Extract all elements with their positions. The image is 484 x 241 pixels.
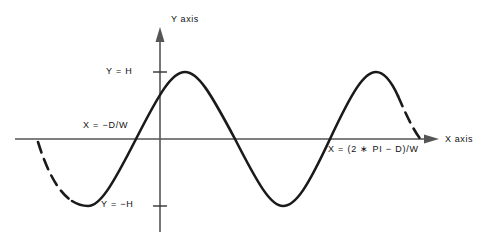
curve-left-dashed-tail	[38, 142, 72, 201]
y-axis	[156, 27, 165, 232]
y-axis-label: Y axis	[171, 14, 199, 24]
x-axis-label: X axis	[445, 134, 473, 144]
y-max-label: Y = H	[106, 66, 133, 76]
plot-canvas	[0, 0, 484, 241]
x-axis-arrowhead	[424, 135, 439, 144]
x-axis	[15, 135, 439, 144]
curve-right-dashed-tail	[398, 96, 421, 140]
sine-wave-figure: Y axis X axis Y = H Y = −H X = −D/W X = …	[0, 0, 484, 241]
x-right-crossing-label: X = (2 ∗ PI − D)/W	[328, 144, 419, 154]
y-min-label: Y = −H	[101, 199, 134, 209]
x-left-crossing-label: X = −D/W	[83, 120, 128, 130]
y-axis-arrowhead	[156, 27, 165, 42]
